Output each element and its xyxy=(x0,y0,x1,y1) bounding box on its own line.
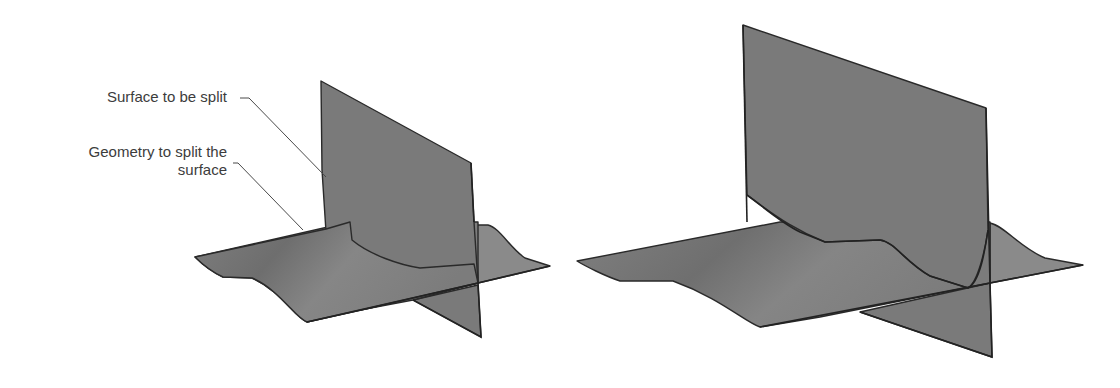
label-geometry-to-split: Geometry to split the surface xyxy=(89,143,227,179)
label-geometry-line1: Geometry to split the xyxy=(89,143,227,161)
split-diagram: Surface to be split Geometry to split th… xyxy=(0,0,1120,388)
label-geometry-line2: surface xyxy=(89,161,227,179)
left-figure xyxy=(195,81,550,337)
leader-line-surface xyxy=(240,98,326,177)
label-surface-to-be-split: Surface to be split xyxy=(107,88,227,106)
right-figure xyxy=(577,25,1083,357)
leader-line-geometry xyxy=(233,163,303,230)
